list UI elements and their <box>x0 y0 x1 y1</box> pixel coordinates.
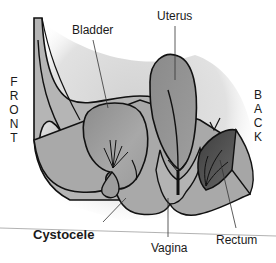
pelvic-anatomy-illustration <box>0 0 276 263</box>
label-bladder: Bladder <box>72 24 113 36</box>
label-uterus: Uterus <box>157 10 192 22</box>
orientation-back: B A C K <box>252 88 264 144</box>
label-vagina: Vagina <box>151 242 187 254</box>
cystocele-diagram: Bladder Uterus Cystocele Vagina Rectum F… <box>0 0 276 263</box>
label-rectum: Rectum <box>216 234 257 246</box>
orientation-front: F R O N T <box>8 75 20 145</box>
label-cystocele: Cystocele <box>33 228 94 241</box>
